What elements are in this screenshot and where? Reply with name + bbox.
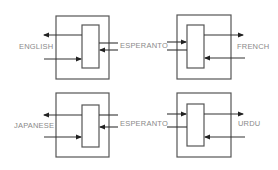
inner-block <box>82 105 99 147</box>
module-urdu <box>167 93 245 157</box>
label-english: ENGLISH <box>19 42 53 51</box>
label-esperanto-top: ESPERANTO <box>120 41 168 50</box>
module-english <box>44 16 118 79</box>
label-urdu: URDU <box>238 119 260 128</box>
module-french <box>167 15 245 79</box>
inner-block <box>187 104 204 146</box>
inner-block <box>82 25 99 68</box>
module-japanese <box>44 93 118 157</box>
label-esperanto-bottom: ESPERANTO <box>120 119 168 128</box>
label-japanese: JAPANESE <box>14 121 54 130</box>
inner-block <box>187 25 204 68</box>
translation-diagram <box>0 0 278 170</box>
label-french: FRENCH <box>237 42 269 51</box>
